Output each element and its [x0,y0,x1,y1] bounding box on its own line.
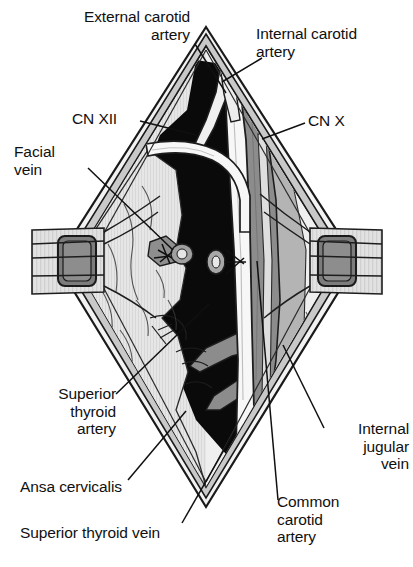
label-cn-xii: CN XII [72,110,142,128]
left-retractor[interactable] [32,228,104,294]
right-retractor[interactable] [310,228,382,294]
label-internal-jugular-vein: Internal jugular vein [325,420,409,473]
label-facial-vein: Facial vein [14,143,94,178]
label-ansa-cervicalis: Ansa cervicalis [20,478,180,496]
label-superior-thyroid-artery: Superior thyroid artery [18,385,116,438]
label-superior-thyroid-vein: Superior thyroid vein [20,524,240,542]
label-cn-x: CN X [308,112,374,130]
label-internal-carotid-artery: Internal carotid artery [256,25,411,60]
label-external-carotid-artery: External carotid artery [20,8,190,43]
label-common-carotid-artery: Common carotid artery [277,493,387,546]
